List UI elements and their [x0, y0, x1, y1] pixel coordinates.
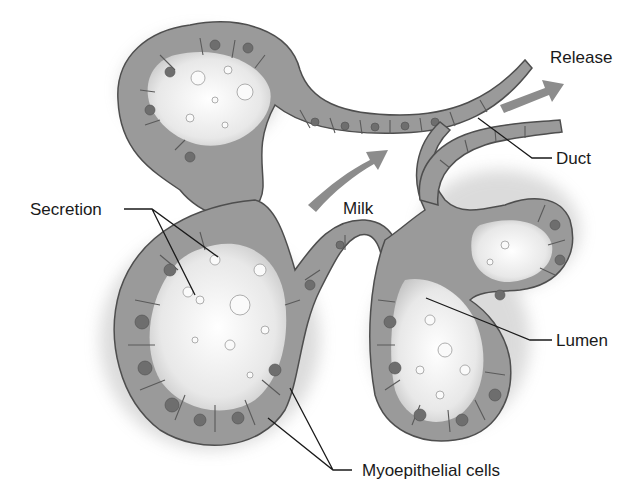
- duct-label: Duct: [556, 149, 591, 168]
- milk-label: Milk: [343, 199, 374, 218]
- mammary-alveolus-diagram: Secretion Milk Release Duct Lumen Myoepi…: [0, 0, 643, 503]
- myoepithelial-label: Myoepithelial cells: [362, 461, 500, 480]
- lumen-label: Lumen: [556, 331, 608, 350]
- release-label: Release: [550, 48, 612, 67]
- secretion-label: Secretion: [30, 200, 102, 219]
